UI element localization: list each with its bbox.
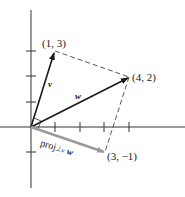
point-label-w-tip: (4, 2) <box>132 72 156 83</box>
diagram-canvas <box>0 0 185 197</box>
vector-label-w: w <box>75 92 81 101</box>
dashed-rectangle <box>55 51 129 152</box>
x-axis <box>0 122 185 132</box>
point-label-v-tip: (1, 3) <box>42 38 66 49</box>
point-label-proj-tip: (3, −1) <box>107 151 137 162</box>
y-axis <box>26 10 36 188</box>
vector-label-v: v <box>48 80 52 89</box>
vector-v <box>31 53 54 127</box>
vector-w <box>31 78 128 127</box>
